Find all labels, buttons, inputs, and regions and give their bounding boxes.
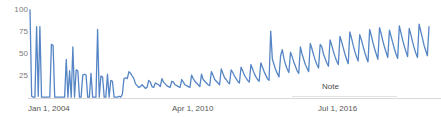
x-tick-label: Jul 1, 2016 (318, 104, 357, 113)
note-underline-rule (292, 96, 397, 97)
chart-plot-area (0, 0, 441, 117)
note-annotation-label: Note (322, 82, 339, 91)
x-tick-label: Jan 1, 2004 (28, 104, 70, 113)
trends-chart: 100755025 Note Jan 1, 2004Apr 1, 2010Jul… (0, 0, 441, 117)
series-line-search-interest (30, 10, 429, 97)
x-tick-label: Apr 1, 2010 (172, 104, 213, 113)
